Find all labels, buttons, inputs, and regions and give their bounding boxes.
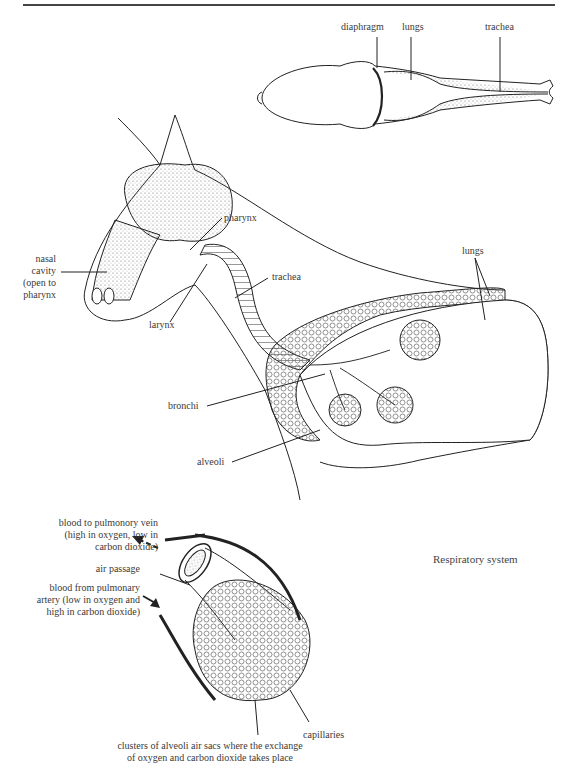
- label-air-passage: air passage: [60, 563, 140, 575]
- label-nasal-cavity: nasal cavity (open to pharynx: [10, 253, 56, 301]
- respiratory-illustration: [0, 0, 569, 774]
- top-view-body: [258, 62, 554, 129]
- figure-caption: Respiratory system: [433, 553, 518, 565]
- alveoli-cluster-detail: [160, 535, 310, 701]
- label-clusters: clusters of alveoli air sacs where the e…: [90, 740, 330, 764]
- label-lungs-top: lungs: [402, 21, 424, 33]
- label-blood-from-artery: blood from pulmonary artery (low in oxyg…: [5, 582, 140, 618]
- label-bronchi: bronchi: [168, 400, 199, 412]
- label-diaphragm: diaphragm: [341, 21, 384, 33]
- label-lungs-side: lungs: [462, 245, 484, 257]
- label-alveoli: alveoli: [197, 456, 224, 468]
- label-larynx: larynx: [149, 319, 175, 331]
- label-trachea-top: trachea: [485, 21, 514, 33]
- label-blood-to-vein: blood to pulmonory vein (high in oxygen,…: [20, 517, 158, 553]
- skull: [92, 164, 232, 304]
- label-trachea-side: trachea: [272, 271, 301, 283]
- label-pharynx: pharynx: [224, 212, 257, 224]
